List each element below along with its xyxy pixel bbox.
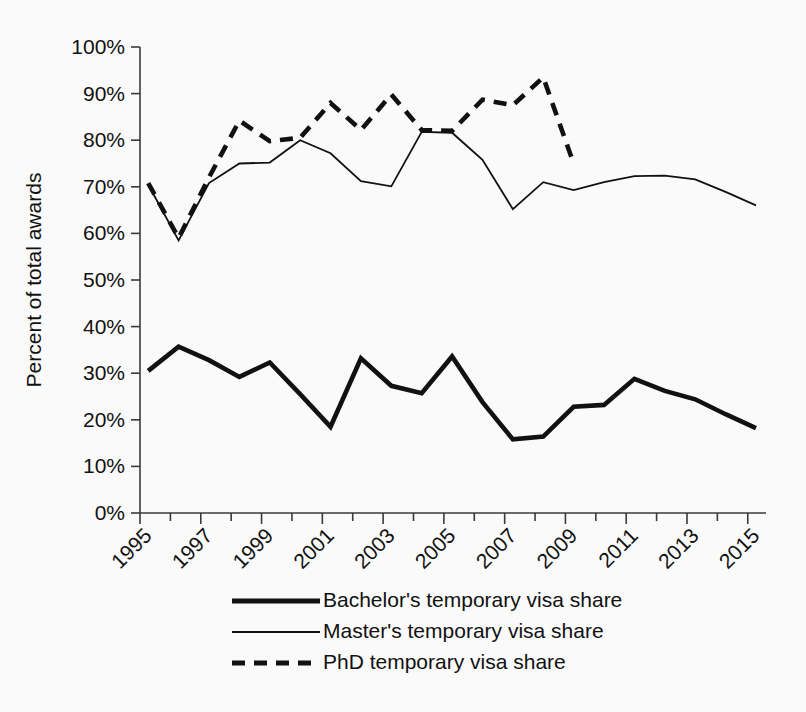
x-tick-label: 1997: [167, 524, 216, 573]
y-tick-label: 80%: [83, 128, 125, 151]
y-axis-tick-labels: 0%10%20%30%40%50%60%70%80%90%100%: [71, 35, 125, 524]
y-tick-label: 0%: [95, 501, 125, 524]
series-line: [148, 347, 756, 440]
y-axis-ticks: [131, 47, 140, 513]
x-tick-label: 2015: [714, 524, 763, 573]
x-tick-label: 2009: [532, 524, 581, 573]
chart-axes: [140, 47, 766, 513]
y-tick-label: 90%: [83, 82, 125, 105]
legend-label: Bachelor's temporary visa share: [323, 588, 622, 611]
legend-label: PhD temporary visa share: [323, 650, 566, 673]
x-tick-label: 2005: [410, 524, 459, 573]
x-tick-label: 2013: [654, 524, 703, 573]
x-tick-label: 2001: [289, 524, 338, 573]
series-line: [148, 132, 756, 241]
y-axis-title: Percent of total awards: [22, 173, 45, 388]
line-chart: 0%10%20%30%40%50%60%70%80%90%100% 199519…: [0, 0, 806, 712]
series-line: [148, 77, 573, 238]
legend-label: Master's temporary visa share: [323, 619, 604, 642]
y-tick-label: 10%: [83, 454, 125, 477]
chart-legend: Bachelor's temporary visa shareMaster's …: [232, 588, 622, 673]
x-tick-label: 2007: [471, 524, 520, 573]
y-tick-label: 60%: [83, 221, 125, 244]
x-tick-label: 1995: [107, 524, 156, 573]
x-tick-label: 2003: [350, 524, 399, 573]
y-tick-label: 70%: [83, 175, 125, 198]
x-axis-tick-labels: 1995199719992001200320052007200920112013…: [107, 524, 764, 573]
y-tick-label: 100%: [71, 35, 125, 58]
y-tick-label: 30%: [83, 361, 125, 384]
y-tick-label: 50%: [83, 268, 125, 291]
chart-figure: 0%10%20%30%40%50%60%70%80%90%100% 199519…: [0, 0, 806, 712]
y-tick-label: 20%: [83, 408, 125, 431]
y-tick-label: 40%: [83, 315, 125, 338]
x-tick-label: 2011: [594, 524, 642, 572]
x-tick-label: 1999: [228, 524, 277, 573]
chart-series: [148, 77, 756, 439]
